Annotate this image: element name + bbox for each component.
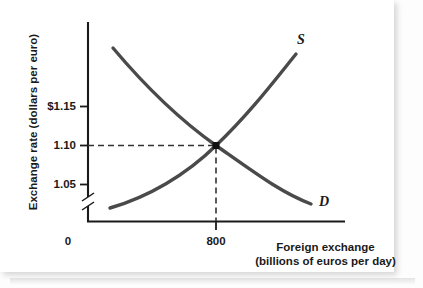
- y-tick-label-105: 1.05: [14, 178, 76, 190]
- x-tick-label-800: 800: [192, 235, 240, 247]
- y-tick-label-115: $1.15: [14, 100, 76, 112]
- x-axis-title-line1: Foreign exchange: [238, 240, 413, 254]
- y-tick-label-110: 1.10: [14, 139, 76, 151]
- equilibrium-point-marker: [213, 142, 220, 149]
- origin-label: 0: [56, 235, 80, 247]
- supply-curve-label: S: [297, 32, 305, 48]
- y-axis-title: Exchange rate (dollars per euro): [27, 12, 39, 232]
- x-axis-title: Foreign exchange (billions of euros per …: [238, 240, 413, 268]
- demand-curve-label: D: [319, 194, 329, 210]
- x-axis-title-line2: (billions of euros per day): [238, 254, 413, 268]
- chart-screenshot: Exchange rate (dollars per euro) $1.15 1…: [0, 0, 423, 288]
